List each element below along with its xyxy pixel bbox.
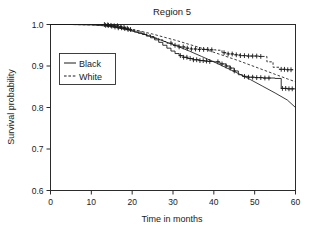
y-axis-ticks: 0.60.70.80.91.0 <box>32 20 51 196</box>
y-tick-label: 1.0 <box>32 20 44 30</box>
plot-frame <box>51 25 296 191</box>
x-tick-label: 50 <box>250 197 260 207</box>
legend-label-black: Black <box>79 59 102 69</box>
chart-title: Region 5 <box>153 6 191 17</box>
chart-legend: Black White <box>60 54 116 85</box>
x-tick-label: 10 <box>87 197 97 207</box>
censor-marks-layer <box>103 22 294 91</box>
x-axis-ticks: 0102030405060 <box>48 191 300 207</box>
y-tick-label: 0.7 <box>32 144 44 154</box>
y-tick-label: 0.8 <box>32 103 44 113</box>
x-tick-label: 0 <box>48 197 53 207</box>
survival-chart-figure: Region 5 0102030405060 0.60.70.80.91.0 T… <box>0 0 313 236</box>
y-axis-label: Survival probability <box>6 69 16 145</box>
y-tick-label: 0.6 <box>32 186 44 196</box>
x-axis-label: Time in months <box>141 214 203 224</box>
x-tick-label: 60 <box>291 197 301 207</box>
chart-canvas: Region 5 0102030405060 0.60.70.80.91.0 T… <box>0 0 313 236</box>
x-tick-label: 20 <box>127 197 137 207</box>
y-tick-label: 0.9 <box>32 61 44 71</box>
x-tick-label: 40 <box>209 197 219 207</box>
x-tick-label: 30 <box>168 197 178 207</box>
legend-label-white: White <box>79 72 102 82</box>
